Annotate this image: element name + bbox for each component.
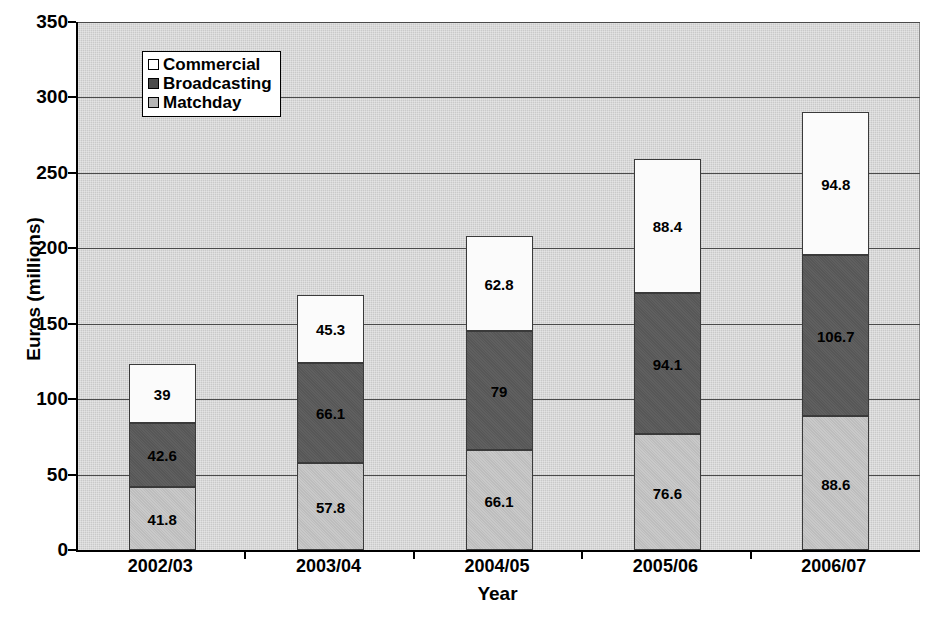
bar-value-label: 39 xyxy=(154,386,171,403)
x-axis-tick-label: 2002/03 xyxy=(90,556,230,577)
legend-item[interactable]: Matchday xyxy=(148,93,272,112)
bar-value-label: 94.1 xyxy=(653,356,682,373)
bar-segment-broadcasting[interactable]: 66.1 xyxy=(297,363,364,463)
legend-swatch-broadcasting xyxy=(148,78,159,89)
y-axis-tick-mark xyxy=(68,247,76,249)
bar-group[interactable]: 66.17962.8 xyxy=(466,22,533,550)
bar-segment-commercial[interactable]: 45.3 xyxy=(297,295,364,363)
stacked-bar-chart: Euros (millions) 350300250200150100500 4… xyxy=(0,0,951,617)
y-axis-tick-label: 50 xyxy=(8,464,68,486)
bar-segment-matchday[interactable]: 66.1 xyxy=(466,450,533,550)
bar-segment-matchday[interactable]: 41.8 xyxy=(129,487,196,550)
x-axis-tick-label: 2003/04 xyxy=(259,556,399,577)
bar-value-label: 88.6 xyxy=(821,476,850,493)
y-axis-tick-label: 300 xyxy=(8,86,68,108)
bar-value-label: 106.7 xyxy=(817,328,855,345)
y-axis-tick-mark xyxy=(68,172,76,174)
legend-label: Broadcasting xyxy=(163,75,272,92)
bar-segment-commercial[interactable]: 88.4 xyxy=(634,159,701,292)
bar-value-label: 62.8 xyxy=(484,276,513,293)
bar-segment-broadcasting[interactable]: 42.6 xyxy=(129,423,196,487)
bar-segment-broadcasting[interactable]: 79 xyxy=(466,331,533,450)
bar-segment-broadcasting[interactable]: 106.7 xyxy=(802,255,869,416)
bar-segment-broadcasting[interactable]: 94.1 xyxy=(634,293,701,435)
legend-label: Commercial xyxy=(163,56,260,73)
legend-item[interactable]: Commercial xyxy=(148,55,272,74)
bar-value-label: 41.8 xyxy=(148,511,177,528)
y-axis-tick-label: 200 xyxy=(8,237,68,259)
bar-segment-matchday[interactable]: 88.6 xyxy=(802,416,869,550)
x-axis-tick-label: 2005/06 xyxy=(595,556,735,577)
bar-value-label: 79 xyxy=(491,383,508,400)
y-axis-tick-label: 350 xyxy=(8,11,68,33)
legend-item[interactable]: Broadcasting xyxy=(148,74,272,93)
bar-value-label: 42.6 xyxy=(148,447,177,464)
bar-group[interactable]: 76.694.188.4 xyxy=(634,22,701,550)
chart-legend: CommercialBroadcastingMatchday xyxy=(142,51,281,117)
x-axis-tick-label: 2006/07 xyxy=(764,556,904,577)
bar-segment-commercial[interactable]: 62.8 xyxy=(466,236,533,331)
plot-right-border xyxy=(919,22,920,550)
y-axis-tick-mark xyxy=(68,96,76,98)
x-axis-tick-mark xyxy=(244,550,246,559)
y-axis-tick-mark xyxy=(68,398,76,400)
x-axis-tick-mark xyxy=(413,550,415,559)
y-axis-tick-label: 250 xyxy=(8,162,68,184)
bar-value-label: 66.1 xyxy=(484,493,513,510)
y-axis-tick-label: 150 xyxy=(8,313,68,335)
x-axis-title: Year xyxy=(75,583,920,605)
x-axis-tick-mark xyxy=(581,550,583,559)
bar-group[interactable]: 88.6106.794.8 xyxy=(802,22,869,550)
bar-segment-matchday[interactable]: 76.6 xyxy=(634,434,701,550)
bar-value-label: 45.3 xyxy=(316,321,345,338)
legend-swatch-commercial xyxy=(148,59,159,70)
y-axis-tick-mark xyxy=(68,323,76,325)
bar-value-label: 94.8 xyxy=(821,176,850,193)
bar-segment-matchday[interactable]: 57.8 xyxy=(297,463,364,550)
x-axis-tick-mark xyxy=(750,550,752,559)
bar-segment-commercial[interactable]: 39 xyxy=(129,364,196,423)
y-axis-tick-label: 0 xyxy=(8,539,68,561)
bar-group[interactable]: 57.866.145.3 xyxy=(297,22,364,550)
y-axis-tick-label: 100 xyxy=(8,388,68,410)
y-axis-tick-mark xyxy=(68,21,76,23)
y-axis-tick-mark xyxy=(68,549,76,551)
bar-value-label: 88.4 xyxy=(653,218,682,235)
bar-value-label: 66.1 xyxy=(316,405,345,422)
legend-swatch-matchday xyxy=(148,97,159,108)
bar-value-label: 76.6 xyxy=(653,485,682,502)
legend-label: Matchday xyxy=(163,94,241,111)
y-axis-tick-mark xyxy=(68,474,76,476)
y-axis-ticks: 350300250200150100500 xyxy=(0,0,68,617)
bar-segment-commercial[interactable]: 94.8 xyxy=(802,112,869,255)
bar-value-label: 57.8 xyxy=(316,499,345,516)
x-axis-tick-label: 2004/05 xyxy=(427,556,567,577)
